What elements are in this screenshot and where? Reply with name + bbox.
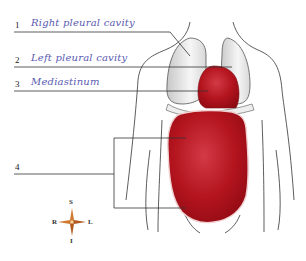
label-right-pleural-cavity: Right pleural cavity xyxy=(31,17,135,28)
compass-inferior: I xyxy=(70,237,73,245)
body-cavities-diagram xyxy=(0,0,306,261)
label-number-3: 3 xyxy=(15,79,20,89)
compass-right: R xyxy=(52,218,57,226)
abdominopelvic-cavity xyxy=(168,111,248,223)
compass-rose-icon xyxy=(58,208,86,236)
compass-left: L xyxy=(88,218,93,226)
label-mediastinum: Mediastinum xyxy=(31,76,100,87)
label-number-2: 2 xyxy=(15,55,20,65)
label-number-4: 4 xyxy=(15,162,20,172)
label-number-1: 1 xyxy=(15,20,20,30)
label-left-pleural-cavity: Left pleural cavity xyxy=(31,52,127,63)
compass-superior: S xyxy=(69,198,73,206)
